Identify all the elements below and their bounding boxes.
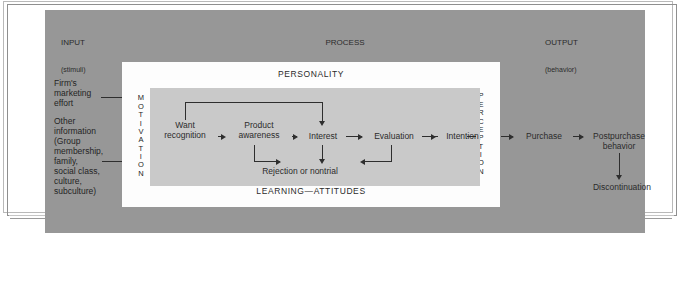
personality-panel: PERSONALITY LEARNING—ATTITUDES M O T I V… — [122, 62, 500, 207]
arrow-want-to-product-head-icon — [221, 134, 226, 140]
motivation-letter: A — [138, 136, 143, 144]
input-item-firms-marketing-effort: Firm's marketing effort — [54, 78, 91, 108]
output-stage-purchase: Purchase — [517, 131, 571, 141]
arrow-perception-to-purchase-head-icon — [509, 134, 514, 140]
band-label-motivation: M O T I V A T I O N — [134, 94, 148, 178]
figure-page: INPUT (stimuli) PROCESS Consumer decisio… — [0, 0, 679, 286]
arrow-purchase-to-postpurchase-head-icon — [579, 134, 584, 140]
reject-from-product-arrowhead-icon — [276, 159, 281, 165]
motivation-letter: N — [138, 169, 144, 177]
decision-process-panel: Want recognition Product awareness Inter… — [150, 88, 480, 186]
band-label-learning-attitudes: LEARNING—ATTITUDES — [122, 186, 500, 196]
stage-evaluation: Evaluation — [364, 131, 424, 141]
stage-want-recognition: Want recognition — [152, 120, 218, 140]
reject-from-product-riser — [254, 145, 255, 162]
diagram-outer-box: INPUT (stimuli) PROCESS Consumer decisio… — [45, 10, 645, 233]
reject-from-interest-arrowhead-icon — [319, 159, 325, 164]
feedback-loop-top — [185, 102, 322, 103]
column-header-input-title: INPUT — [61, 38, 141, 47]
reject-from-evaluation-riser — [391, 145, 392, 162]
stage-interest: Interest — [297, 131, 349, 141]
arrow-postpurchase-to-discontinuation-head-icon — [616, 175, 622, 180]
motivation-letter: T — [139, 111, 144, 119]
arrow-evaluation-to-intention-head-icon — [431, 134, 436, 140]
arrow-product-to-interest-head-icon — [293, 134, 298, 140]
band-label-personality: PERSONALITY — [122, 69, 500, 79]
reject-from-evaluation-run — [362, 161, 392, 162]
stage-product-awareness: Product awareness — [226, 120, 292, 140]
feedback-loop-arrowhead-icon — [319, 121, 325, 126]
arrow-interest-to-evaluation-head-icon — [358, 134, 363, 140]
connector-intention-to-perception — [467, 136, 476, 137]
column-header-output: OUTPUT (behavior) — [545, 19, 635, 93]
feedback-loop-left-riser — [185, 102, 186, 120]
column-header-output-subtitle: (behavior) — [545, 66, 635, 74]
stage-intention: Intention — [435, 131, 490, 141]
stage-rejection-or-nontrial: Rejection or nontrial — [240, 166, 360, 176]
reject-from-evaluation-arrowhead-icon — [360, 159, 365, 165]
input-item-other-information: Other information (Group membership, fam… — [54, 116, 103, 196]
output-stage-discontinuation: Discontinuation — [579, 182, 665, 192]
column-header-output-title: OUTPUT — [545, 38, 635, 47]
output-stage-postpurchase-behavior: Postpurchase behavior — [585, 131, 653, 151]
